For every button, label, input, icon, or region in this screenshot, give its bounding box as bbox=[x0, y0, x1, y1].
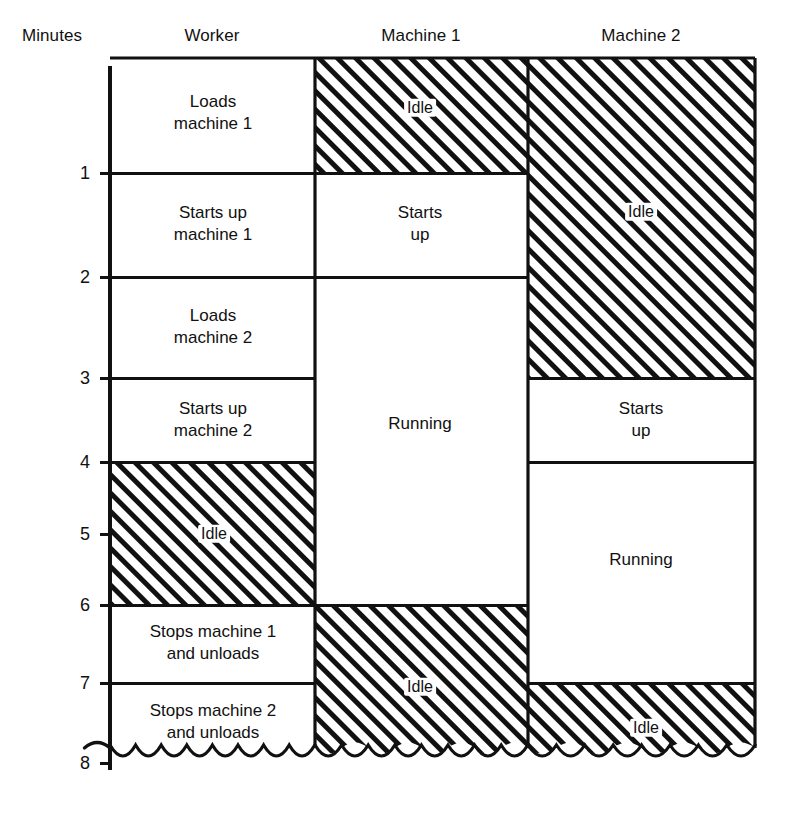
worker-idle-hatch bbox=[110, 462, 315, 605]
machine2-idle-hatch-bottom bbox=[528, 683, 755, 768]
column-header-machine-1: Machine 1 bbox=[381, 26, 460, 46]
tick-label-5: 5 bbox=[62, 524, 90, 545]
gantt-activity-chart: Minutes Worker Machine 1 Machine 2 1 2 3… bbox=[0, 0, 794, 815]
chart-graphics bbox=[0, 0, 794, 815]
column-header-machine-2: Machine 2 bbox=[601, 26, 680, 46]
tick-label-2: 2 bbox=[62, 267, 90, 288]
tick-label-4: 4 bbox=[62, 452, 90, 473]
worker-column bbox=[110, 58, 315, 768]
tick-label-3: 3 bbox=[62, 368, 90, 389]
tick-label-6: 6 bbox=[62, 595, 90, 616]
machine2-column bbox=[528, 58, 755, 768]
tick-label-1: 1 bbox=[62, 163, 90, 184]
tick-label-8: 8 bbox=[62, 753, 90, 774]
tick-label-7: 7 bbox=[62, 673, 90, 694]
machine1-idle-hatch-top bbox=[315, 58, 528, 173]
machine2-idle-hatch-top bbox=[528, 58, 755, 378]
column-header-worker: Worker bbox=[184, 26, 239, 46]
machine1-column bbox=[315, 58, 528, 768]
axis-title-minutes: Minutes bbox=[22, 26, 82, 46]
